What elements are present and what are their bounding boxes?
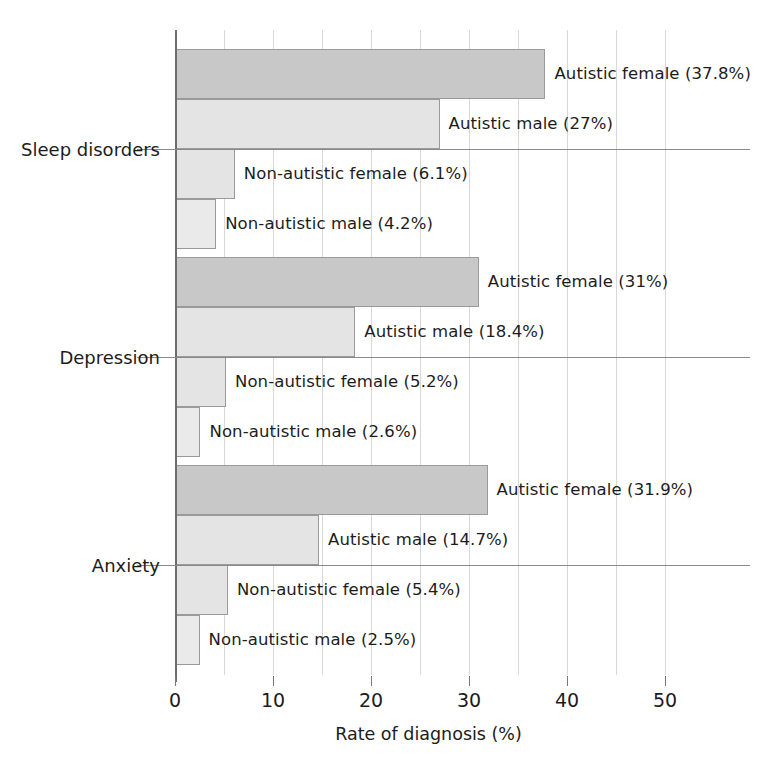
x-axis-title-text: Rate of diagnosis (%) (239, 724, 522, 744)
x-tick-mark-10 (273, 676, 274, 686)
x-tick-label-10: 10 (261, 689, 285, 711)
bar-autistic-male-anxiety[interactable] (175, 515, 319, 565)
gridline-45 (616, 30, 617, 675)
x-tick-label-0: 0 (169, 689, 181, 711)
bar-non-autistic-female-anxiety[interactable] (175, 565, 228, 615)
bar-value-label: Non-autistic male (2.6%) (209, 422, 417, 441)
bar-non-autistic-male-anxiety[interactable] (175, 615, 200, 665)
x-tick-mark-30 (469, 676, 470, 686)
bar-value-label: Autistic female (37.8%) (554, 64, 750, 83)
bar-autistic-female-sleep-disorders[interactable] (175, 49, 545, 99)
bar-non-autistic-female-sleep-disorders[interactable] (175, 149, 235, 199)
bar-value-label: Non-autistic male (4.2%) (225, 214, 433, 233)
bar-value-label: Autistic female (31.9%) (497, 480, 693, 499)
x-tick-mark-40 (567, 676, 568, 686)
bar-non-autistic-male-depression[interactable] (175, 407, 200, 457)
bar-value-label: Autistic female (31%) (488, 272, 669, 291)
x-tick-label-50: 50 (653, 689, 677, 711)
bar-autistic-female-anxiety[interactable] (175, 465, 488, 515)
bar-value-label: Non-autistic male (2.5%) (209, 630, 417, 649)
plot-area: Autistic female (37.8%)Autistic male (27… (175, 30, 720, 675)
bar-value-label: Autistic male (27%) (449, 114, 613, 133)
category-label-anxiety: Anxiety (92, 555, 160, 576)
category-baseline-sleep-disorders (137, 149, 750, 150)
category-label-depression: Depression (59, 347, 160, 368)
gridline-50 (665, 30, 666, 675)
x-tick-label-40: 40 (555, 689, 579, 711)
x-tick-label-30: 30 (457, 689, 481, 711)
bar-value-label: Autistic male (18.4%) (364, 322, 544, 341)
x-tick-mark-0 (175, 676, 176, 686)
x-axis-title: Rate of diagnosis (%) (0, 724, 761, 744)
bar-autistic-male-sleep-disorders[interactable] (175, 99, 440, 149)
bar-value-label: Non-autistic female (5.4%) (237, 580, 461, 599)
bar-non-autistic-male-sleep-disorders[interactable] (175, 199, 216, 249)
x-tick-mark-20 (371, 676, 372, 686)
category-baseline-anxiety (137, 565, 750, 566)
bar-autistic-female-depression[interactable] (175, 257, 479, 307)
y-axis-line (175, 30, 177, 682)
x-tick-mark-50 (665, 676, 666, 686)
bar-autistic-male-depression[interactable] (175, 307, 355, 357)
bar-value-label: Autistic male (14.7%) (328, 530, 508, 549)
bar-chart: Autistic female (37.8%)Autistic male (27… (0, 0, 761, 767)
bar-value-label: Non-autistic female (6.1%) (244, 164, 468, 183)
x-tick-label-20: 20 (359, 689, 383, 711)
category-baseline-depression (137, 357, 750, 358)
bar-non-autistic-female-depression[interactable] (175, 357, 226, 407)
category-label-sleep-disorders: Sleep disorders (21, 139, 160, 160)
bar-value-label: Non-autistic female (5.2%) (235, 372, 459, 391)
